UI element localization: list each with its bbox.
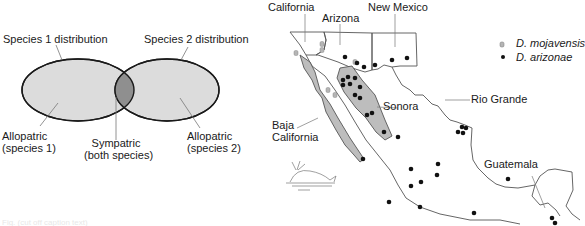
arizonae-dot [550, 216, 555, 221]
arizonae-dot [358, 85, 363, 90]
california-label: California [268, 1, 314, 13]
arizonae-dot [358, 96, 363, 101]
guatemala-label: Guatemala [484, 158, 538, 170]
new-mexico-outline [372, 33, 417, 70]
arizonae-dot [409, 167, 414, 172]
mojavensis-marker [320, 42, 324, 47]
arizonae-dot [506, 177, 511, 182]
arizonae-legend-dot [501, 55, 505, 59]
arizonae-dot [373, 63, 378, 68]
arizonae-dot [341, 83, 346, 88]
arizonae-dot [464, 126, 469, 131]
arizonae-dot [409, 184, 414, 189]
legend-mojavensis-label: D. mojavensis [516, 37, 585, 49]
arizonae-dot [355, 61, 360, 66]
arizonae-dot [353, 76, 358, 81]
arizonae-dot [460, 125, 465, 130]
arizonae-dot [419, 180, 424, 185]
mojavensis-marker [294, 51, 298, 56]
new-mexico-label: New Mexico [368, 1, 428, 13]
arizonae-dot [370, 111, 375, 116]
whale-illustration [286, 161, 336, 190]
mojavensis-marker [333, 93, 337, 98]
arizonae-dot [361, 157, 366, 162]
baja-california-label: Baja California [272, 119, 318, 143]
arizonae-dot [436, 162, 441, 167]
mojavensis-marker [320, 48, 324, 53]
arizonae-dot [346, 75, 351, 80]
arizonae-dot [353, 93, 358, 98]
arizonae-dot [390, 58, 395, 63]
mojavensis-marker [326, 88, 330, 93]
arizonae-dots [341, 55, 558, 226]
rio-grande-label: Rio Grande [471, 93, 527, 105]
rio-grande-gulf-coast [392, 67, 580, 220]
arizonae-dot [387, 200, 392, 205]
arizona-label: Arizona [322, 12, 359, 24]
arizonae-dot [461, 131, 466, 136]
legend-arizonae-label: D. arizonae [516, 51, 572, 63]
arizonae-dot [396, 135, 401, 140]
arizonae-dot [382, 130, 387, 135]
mojavensis-legend-marker [500, 42, 504, 47]
figure-caption: Fig. (cut off caption text) [2, 219, 292, 226]
arizonae-dot [435, 173, 440, 178]
arizonae-dot [456, 130, 461, 135]
arizonae-dot [365, 113, 370, 118]
arizonae-dot [418, 205, 423, 210]
arizonae-dot [362, 65, 367, 70]
arizonae-dot [341, 78, 346, 83]
arizonae-dot [553, 221, 558, 226]
guatemala-border [532, 185, 560, 216]
arizonae-dot [472, 211, 477, 216]
arizonae-dot [405, 56, 410, 61]
arizonae-dot [343, 55, 348, 60]
arizonae-dot [348, 82, 353, 87]
sonora-label: Sonora [383, 100, 418, 112]
